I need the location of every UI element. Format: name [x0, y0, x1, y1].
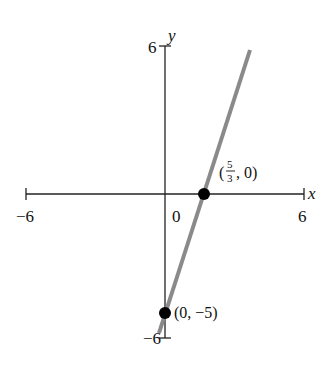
y-intercept-point: [159, 307, 171, 319]
x-axis-label: x: [307, 184, 316, 203]
x-tick-label-min: −6: [16, 207, 34, 226]
y-tick-label-min: −6: [143, 329, 161, 348]
paren-open: (: [219, 164, 224, 182]
fraction-denominator: 3: [227, 172, 233, 184]
label-rest: , 0): [236, 164, 257, 182]
x-tick-label-max: 6: [298, 207, 307, 226]
x-intercept-label: ( 5 3 , 0): [219, 158, 257, 184]
line-graph: x y −6 6 0 6 −6 ( 5 3 , 0) (0, −5): [0, 0, 336, 366]
fraction-numerator: 5: [227, 158, 233, 170]
origin-label: 0: [172, 207, 181, 226]
y-axis-label: y: [166, 26, 176, 45]
x-intercept-point: [198, 188, 210, 200]
y-intercept-label: (0, −5): [174, 304, 218, 322]
y-tick-label-max: 6: [148, 38, 157, 57]
